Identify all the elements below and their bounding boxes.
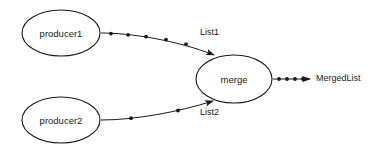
node-producer1-label: producer1 — [40, 28, 83, 39]
token-dot — [109, 32, 113, 36]
node-producer2[interactable]: producer2 — [22, 97, 100, 143]
token-dot — [277, 77, 281, 81]
edge-label-list1: List1 — [200, 27, 219, 37]
output-label-mergedlist: MergedList — [316, 73, 361, 83]
token-dot — [126, 33, 130, 37]
token-dot — [176, 109, 180, 113]
edge-mergedlist[interactable]: MergedList — [273, 73, 361, 83]
node-merge[interactable]: merge — [196, 55, 272, 103]
edge-list1[interactable]: List1 — [101, 27, 219, 55]
token-dot — [144, 35, 148, 39]
node-producer2-label: producer2 — [40, 115, 83, 126]
edge-list2[interactable]: List2 — [101, 101, 219, 120]
token-dot — [164, 38, 168, 42]
token-dot — [184, 42, 188, 46]
token-dot — [293, 77, 297, 81]
node-producer1[interactable]: producer1 — [22, 10, 100, 56]
dataflow-diagram: List1 List2 MergedList producer — [0, 0, 381, 154]
diagram-canvas: List1 List2 MergedList producer — [0, 0, 381, 154]
node-merge-label: merge — [221, 74, 248, 85]
token-dot — [129, 116, 133, 120]
edge-list2-tokens — [129, 109, 180, 121]
token-dot — [301, 77, 305, 81]
edge-list1-path — [101, 33, 214, 55]
token-dot — [285, 77, 289, 81]
edge-list2-path — [101, 101, 213, 120]
edge-label-list2: List2 — [200, 107, 219, 117]
